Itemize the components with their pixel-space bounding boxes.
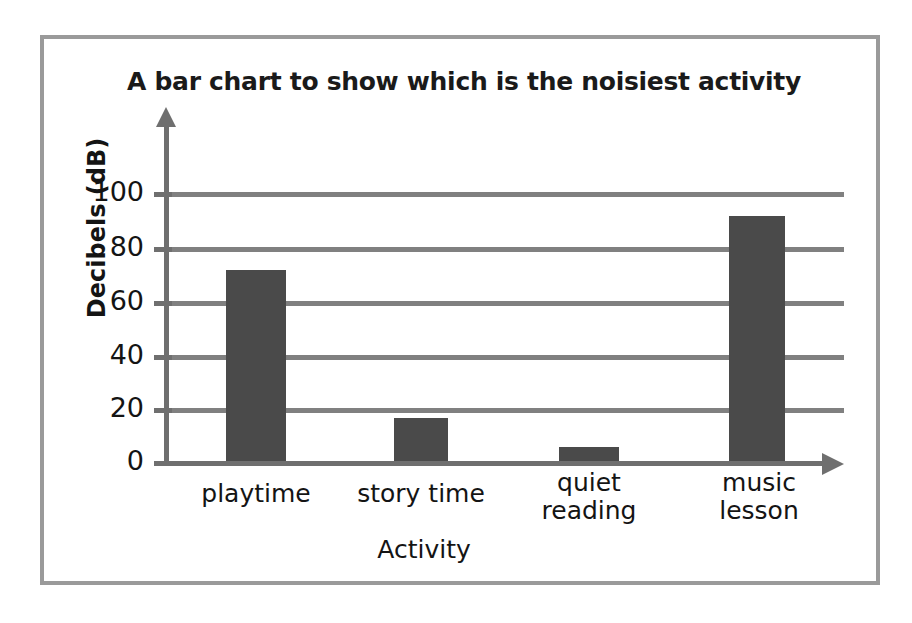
- y-tick-80: [154, 247, 172, 252]
- y-tick-label-0: 0: [74, 445, 144, 476]
- y-tick-40: [154, 355, 172, 360]
- x-category-label-music-lesson: music lesson: [689, 469, 829, 525]
- chart-frame: A bar chart to show which is the noisies…: [40, 35, 880, 585]
- x-category-line: playtime: [186, 480, 326, 508]
- y-tick-label-60: 60: [74, 285, 144, 316]
- x-category-line: music: [689, 469, 829, 497]
- x-category-label-quiet-reading: quiet reading: [519, 469, 659, 525]
- y-tick-0: [154, 461, 172, 466]
- chart-title: A bar chart to show which is the noisies…: [44, 67, 884, 96]
- x-category-label-story-time: story time: [351, 480, 491, 508]
- y-axis-arrow-icon: [156, 107, 176, 127]
- bar-music-lesson[interactable]: [729, 216, 785, 461]
- y-tick-label-20: 20: [74, 392, 144, 423]
- x-axis-line: [164, 461, 824, 466]
- x-category-label-playtime: playtime: [186, 480, 326, 508]
- bar-quiet-reading[interactable]: [559, 447, 619, 461]
- x-category-line: story time: [351, 480, 491, 508]
- y-tick-60: [154, 301, 172, 306]
- chart-page: A bar chart to show which is the noisies…: [0, 0, 912, 623]
- y-tick-label-100: 100: [74, 176, 144, 207]
- x-category-line: quiet: [519, 469, 659, 497]
- y-tick-label-80: 80: [74, 231, 144, 262]
- y-tick-100: [154, 192, 172, 197]
- x-category-line: reading: [519, 497, 659, 525]
- x-axis-title: Activity: [314, 535, 534, 564]
- y-tick-label-40: 40: [74, 339, 144, 370]
- bar-playtime[interactable]: [226, 270, 286, 461]
- bar-story-time[interactable]: [394, 418, 448, 461]
- y-tick-20: [154, 408, 172, 413]
- gridline-100: [169, 192, 844, 197]
- x-category-line: lesson: [689, 497, 829, 525]
